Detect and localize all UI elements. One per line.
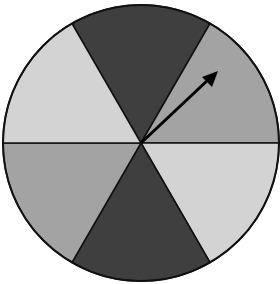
- spinner-diagram: [0, 0, 280, 284]
